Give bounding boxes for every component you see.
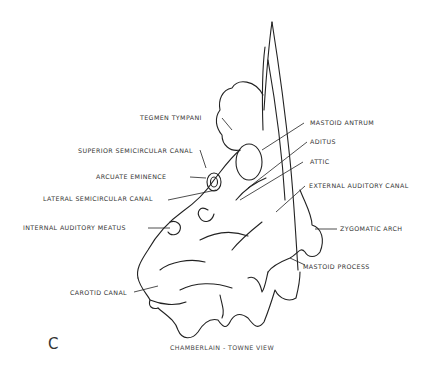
label-mastoid-process: MASTOID PROCESS bbox=[303, 264, 370, 270]
label-arcuate-eminence: ARCUATE EMINENCE bbox=[96, 174, 166, 180]
label-superior-semicircular-canal: SUPERIOR SEMICIRCULAR CANAL bbox=[78, 148, 193, 154]
label-attic: ATTIC bbox=[310, 159, 330, 165]
label-carotid-canal: CAROTID CANAL bbox=[70, 290, 127, 296]
label-internal-auditory-meatus: INTERNAL AUDITORY MEATUS bbox=[23, 225, 126, 231]
label-mastoid-antrum: MASTOID ANTRUM bbox=[310, 120, 374, 126]
label-aditus: ADITUS bbox=[310, 139, 336, 145]
label-tegmen-tympani: TEGMEN TYMPANI bbox=[140, 115, 202, 121]
panel-letter: C bbox=[48, 335, 58, 353]
label-lateral-semicircular-canal: LATERAL SEMICIRCULAR CANAL bbox=[43, 196, 153, 202]
anatomy-diagram: TEGMEN TYMPANI MASTOID ANTRUM ADITUS SUP… bbox=[0, 0, 430, 365]
label-zygomatic-arch: ZYGOMATIC ARCH bbox=[340, 226, 402, 232]
label-external-auditory-canal: EXTERNAL AUDITORY CANAL bbox=[309, 183, 409, 189]
figure-caption: CHAMBERLAIN - TOWNE VIEW bbox=[170, 344, 274, 351]
